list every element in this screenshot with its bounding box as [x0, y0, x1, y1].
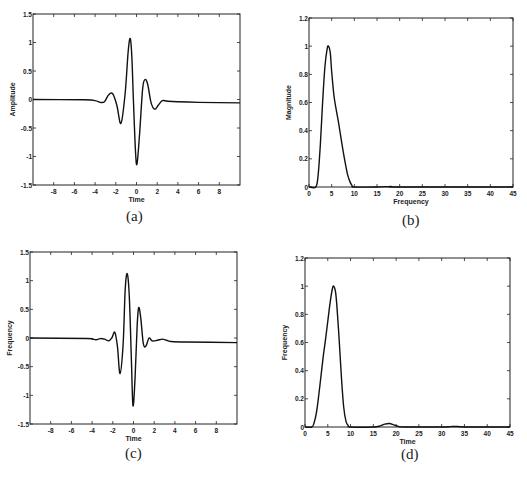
- x-tick-label: 25: [419, 190, 427, 197]
- x-tick-label: -8: [48, 427, 54, 434]
- chart-panel-b: 05101520253035404500.20.40.60.811.2Frequ…: [265, 0, 527, 240]
- y-tick-label: 0.6: [299, 99, 308, 106]
- x-tick-label: 10: [351, 190, 359, 197]
- data-series-line: [30, 274, 237, 406]
- x-axis-label: Frequency: [393, 198, 429, 206]
- y-tick-label: 1: [25, 277, 29, 284]
- y-tick-label: 1.2: [299, 15, 308, 22]
- x-tick-label: 0: [303, 430, 307, 437]
- x-tick-label: 8: [214, 427, 218, 434]
- data-series-line: [305, 286, 510, 427]
- chart-panel-c: -8-6-4-202468-1.5-1-0.500.511.5TimeFrequ…: [0, 240, 265, 481]
- x-tick-label: 2: [152, 427, 156, 434]
- y-tick-label: 0: [28, 96, 32, 103]
- plot-frame: [309, 18, 513, 187]
- x-axis-label: Time: [399, 438, 415, 445]
- y-tick-label: 1.5: [23, 11, 32, 18]
- y-tick-label: 0: [300, 424, 304, 431]
- x-tick-label: 0: [132, 427, 136, 434]
- x-axis-label: Time: [125, 435, 141, 442]
- caption-d: (d): [401, 446, 419, 463]
- y-tick-label: 0.4: [295, 367, 304, 374]
- x-tick-label: 5: [326, 430, 330, 437]
- y-tick-label: 1.5: [20, 249, 29, 256]
- data-series-line: [309, 46, 513, 188]
- x-tick-label: 6: [194, 427, 198, 434]
- y-tick-label: -1: [23, 392, 29, 399]
- x-axis-label: Time: [128, 196, 144, 203]
- x-tick-label: 6: [197, 188, 201, 195]
- y-axis-label: Frequency: [281, 325, 289, 361]
- y-tick-label: 0.2: [299, 155, 308, 162]
- y-tick-label: 1.2: [295, 255, 304, 262]
- caption-c: (c): [125, 445, 142, 462]
- chart-panel-d: 05101520253035404500.20.40.60.811.2TimeF…: [265, 240, 527, 481]
- chart-panel-a: -8-6-4-202468-1.5-1-0.500.511.5TimeAmpli…: [0, 0, 265, 240]
- x-tick-label: 30: [441, 190, 449, 197]
- y-tick-label: -1.5: [18, 421, 30, 428]
- y-axis-label: Frequency: [6, 320, 14, 356]
- y-tick-label: 1: [304, 43, 308, 50]
- x-tick-label: 20: [392, 430, 400, 437]
- y-tick-label: -0.5: [18, 363, 30, 370]
- x-tick-label: 0: [307, 190, 311, 197]
- x-tick-label: -2: [113, 188, 119, 195]
- y-tick-label: 0.8: [295, 311, 304, 318]
- y-tick-label: 0: [25, 335, 29, 342]
- x-tick-label: 10: [347, 430, 355, 437]
- x-tick-label: 35: [461, 430, 469, 437]
- x-tick-label: 8: [217, 188, 221, 195]
- x-tick-label: 4: [176, 188, 180, 195]
- y-tick-label: 0.4: [299, 127, 308, 134]
- x-tick-label: -2: [110, 427, 116, 434]
- x-tick-label: 45: [506, 430, 514, 437]
- x-tick-label: 5: [330, 190, 334, 197]
- x-tick-label: 0: [135, 188, 139, 195]
- x-tick-label: -4: [89, 427, 95, 434]
- y-tick-label: 0.5: [20, 306, 29, 313]
- x-tick-label: 20: [396, 190, 404, 197]
- y-tick-label: 1: [28, 39, 32, 46]
- x-tick-label: 30: [438, 430, 446, 437]
- x-tick-label: 2: [155, 188, 159, 195]
- y-tick-label: 0.6: [295, 339, 304, 346]
- y-tick-label: 1: [300, 283, 304, 290]
- y-tick-label: -1: [26, 153, 32, 160]
- plot-frame: [305, 258, 510, 427]
- y-tick-label: -0.5: [21, 125, 33, 132]
- x-tick-label: 25: [415, 430, 423, 437]
- x-tick-label: -6: [69, 427, 75, 434]
- x-tick-label: 45: [509, 190, 517, 197]
- data-series-line: [33, 38, 240, 164]
- x-tick-label: 40: [487, 190, 495, 197]
- caption-b: (b): [402, 212, 420, 229]
- y-tick-label: -1.5: [21, 182, 33, 189]
- x-tick-label: 15: [373, 190, 381, 197]
- x-tick-label: 35: [464, 190, 472, 197]
- y-tick-label: 0.5: [23, 68, 32, 75]
- y-tick-label: 0.8: [299, 71, 308, 78]
- x-tick-label: -6: [72, 188, 78, 195]
- y-axis-label: Magnitude: [285, 85, 293, 120]
- y-tick-label: 0.2: [295, 395, 304, 402]
- x-tick-label: -8: [51, 188, 57, 195]
- x-tick-label: 40: [484, 430, 492, 437]
- x-tick-label: -4: [92, 188, 98, 195]
- y-axis-label: Amplitude: [9, 82, 17, 116]
- y-tick-label: 0: [304, 184, 308, 191]
- x-tick-label: 4: [173, 427, 177, 434]
- caption-a: (a): [126, 208, 143, 225]
- chart-a-svg: -8-6-4-202468-1.5-1-0.500.511.5TimeAmpli…: [0, 0, 265, 240]
- chart-d-svg: 05101520253035404500.20.40.60.811.2TimeF…: [265, 240, 527, 481]
- chart-b-svg: 05101520253035404500.20.40.60.811.2Frequ…: [265, 0, 527, 240]
- x-tick-label: 15: [370, 430, 378, 437]
